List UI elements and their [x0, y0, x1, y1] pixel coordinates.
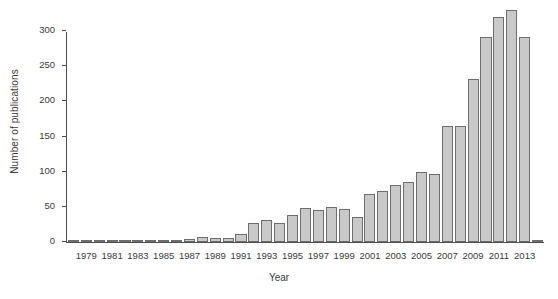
x-tick-label: 1999 [334, 250, 355, 261]
x-tick-label: 2005 [411, 250, 432, 261]
y-tick-label: 300 [39, 24, 55, 35]
bar [197, 237, 208, 242]
y-tick-label: 200 [39, 94, 55, 105]
x-tick-label: 1997 [308, 250, 329, 261]
bar [248, 223, 259, 242]
x-tick-label: 2011 [489, 250, 509, 261]
bar [68, 240, 79, 242]
y-tick-label: 100 [39, 165, 55, 176]
x-tick-label: 2009 [463, 250, 484, 261]
plot-area: 050100150200250300 [66, 12, 544, 243]
bar [300, 208, 311, 242]
y-tick: 300 [62, 30, 66, 31]
bar [377, 191, 388, 242]
bar [261, 220, 272, 242]
y-tick-label: 50 [44, 200, 55, 211]
bar [171, 240, 182, 242]
bar [416, 172, 427, 242]
y-tick: 250 [62, 65, 66, 66]
x-tick-label: 1989 [205, 250, 226, 261]
y-tick-label: 250 [39, 59, 55, 70]
x-axis-ticks: 1979198119831985198719891991199319951997… [0, 243, 558, 263]
y-tick-label: 150 [39, 130, 55, 141]
bar [287, 215, 298, 242]
bar [519, 37, 530, 242]
bar [107, 240, 118, 242]
x-tick-label: 1987 [179, 250, 200, 261]
y-tick: 150 [62, 136, 66, 137]
bar [506, 10, 517, 242]
x-tick-label: 1985 [153, 250, 174, 261]
bar [352, 217, 363, 242]
bar [339, 209, 350, 242]
bar [468, 79, 479, 242]
y-tick: 200 [62, 100, 66, 101]
y-axis-title: Number of publications [9, 2, 20, 242]
bar [493, 17, 504, 242]
x-tick-label: 1983 [127, 250, 148, 261]
y-axis-title-wrapper: Number of publications [2, 0, 22, 250]
x-tick-label: 1981 [102, 250, 123, 261]
y-tick: 50 [62, 206, 66, 207]
bar [532, 240, 543, 242]
bar [210, 238, 221, 242]
bar [94, 240, 105, 242]
bar [119, 240, 130, 242]
bar [132, 240, 143, 242]
bar [313, 210, 324, 242]
bar-series [67, 12, 544, 242]
bar [81, 240, 92, 242]
x-tick-label: 2007 [437, 250, 458, 261]
bar [480, 37, 491, 242]
x-tick-label: 1991 [230, 250, 251, 261]
bar [158, 240, 169, 242]
bar [429, 174, 440, 242]
bar [442, 126, 453, 242]
y-tick: 100 [62, 171, 66, 172]
bar [390, 185, 401, 242]
bar [274, 223, 285, 242]
x-axis-title: Year [0, 272, 558, 283]
y-tick: 0 [62, 241, 66, 242]
bar [403, 182, 414, 242]
publications-per-year-bar-chart: Number of publications 05010015020025030… [0, 0, 558, 299]
x-tick-label: 2013 [514, 250, 535, 261]
bar [364, 194, 375, 242]
bar [184, 239, 195, 242]
bar [235, 234, 246, 242]
bar [145, 240, 156, 242]
x-tick-label: 2001 [359, 250, 380, 261]
x-tick-label: 1995 [282, 250, 303, 261]
bar [455, 126, 466, 242]
bar [326, 207, 337, 242]
x-tick-label: 1993 [256, 250, 277, 261]
x-tick-label: 2003 [385, 250, 406, 261]
x-tick-label: 1979 [76, 250, 97, 261]
bar [223, 238, 234, 242]
